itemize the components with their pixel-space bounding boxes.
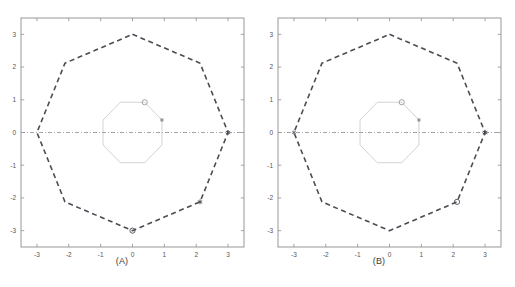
series-group — [21, 34, 244, 233]
y-tick-label: 1 — [269, 96, 273, 103]
y-tick-label: -3 — [10, 227, 16, 234]
plot-svg-a: -3-2-10123-3-2-10123 — [0, 0, 257, 258]
plot-area-a: -3-2-10123-3-2-10123 — [0, 0, 257, 258]
y-tick-label: -2 — [267, 194, 273, 201]
plot-svg-b: -3-2-10123-3-2-10123 — [257, 0, 514, 258]
y-tick-label: -2 — [10, 194, 16, 201]
y-tick-label: -1 — [267, 162, 273, 169]
caption-b: (B) — [257, 256, 501, 266]
y-tick-label: 2 — [12, 63, 16, 70]
panel-a: -3-2-10123-3-2-10123 (A) — [0, 0, 257, 287]
panel-b: -3-2-10123-3-2-10123 (B) — [257, 0, 514, 287]
figure-root: -3-2-10123-3-2-10123 (A) -3-2-10123-3-2-… — [0, 0, 515, 287]
y-tick-label: 2 — [269, 63, 273, 70]
y-tick-label: 3 — [269, 31, 273, 38]
y-tick-label: -3 — [267, 227, 273, 234]
y-tick-label: 0 — [12, 129, 16, 136]
caption-a: (A) — [0, 256, 244, 266]
y-tick-label: 3 — [12, 31, 16, 38]
y-tick-label: -1 — [10, 162, 16, 169]
plot-area-b: -3-2-10123-3-2-10123 — [257, 0, 514, 258]
series-group — [278, 34, 501, 230]
y-tick-label: 0 — [269, 129, 273, 136]
y-tick-label: 1 — [12, 96, 16, 103]
